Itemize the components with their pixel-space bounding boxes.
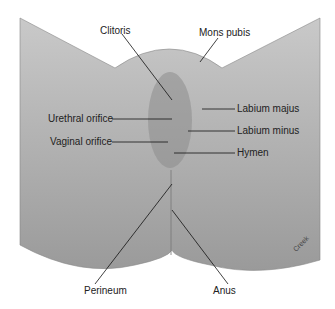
label-vaginal-orifice: Vaginal orifice — [50, 137, 112, 147]
illustration: Creek — [0, 0, 335, 309]
label-hymen: Hymen — [237, 148, 269, 158]
label-urethral-orifice: Urethral orifice — [48, 114, 113, 124]
label-perineum: Perineum — [84, 286, 127, 296]
central-region — [148, 72, 192, 168]
label-labium-majus: Labium majus — [237, 104, 299, 114]
label-mons-pubis: Mons pubis — [199, 28, 250, 38]
label-anus: Anus — [213, 286, 236, 296]
label-clitoris: Clitoris — [100, 26, 131, 36]
label-labium-minus: Labium minus — [237, 126, 299, 136]
